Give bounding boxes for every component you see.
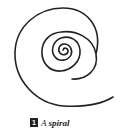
figure-number-badge: 1 xyxy=(30,118,38,127)
spiral-diagram xyxy=(0,0,123,110)
spiral-line xyxy=(15,8,113,106)
caption-text: A spiral xyxy=(41,118,70,128)
caption-prefix: A xyxy=(41,118,46,128)
figure-caption: 1A spiral xyxy=(30,117,70,128)
caption-emphasis: spiral xyxy=(49,118,70,128)
